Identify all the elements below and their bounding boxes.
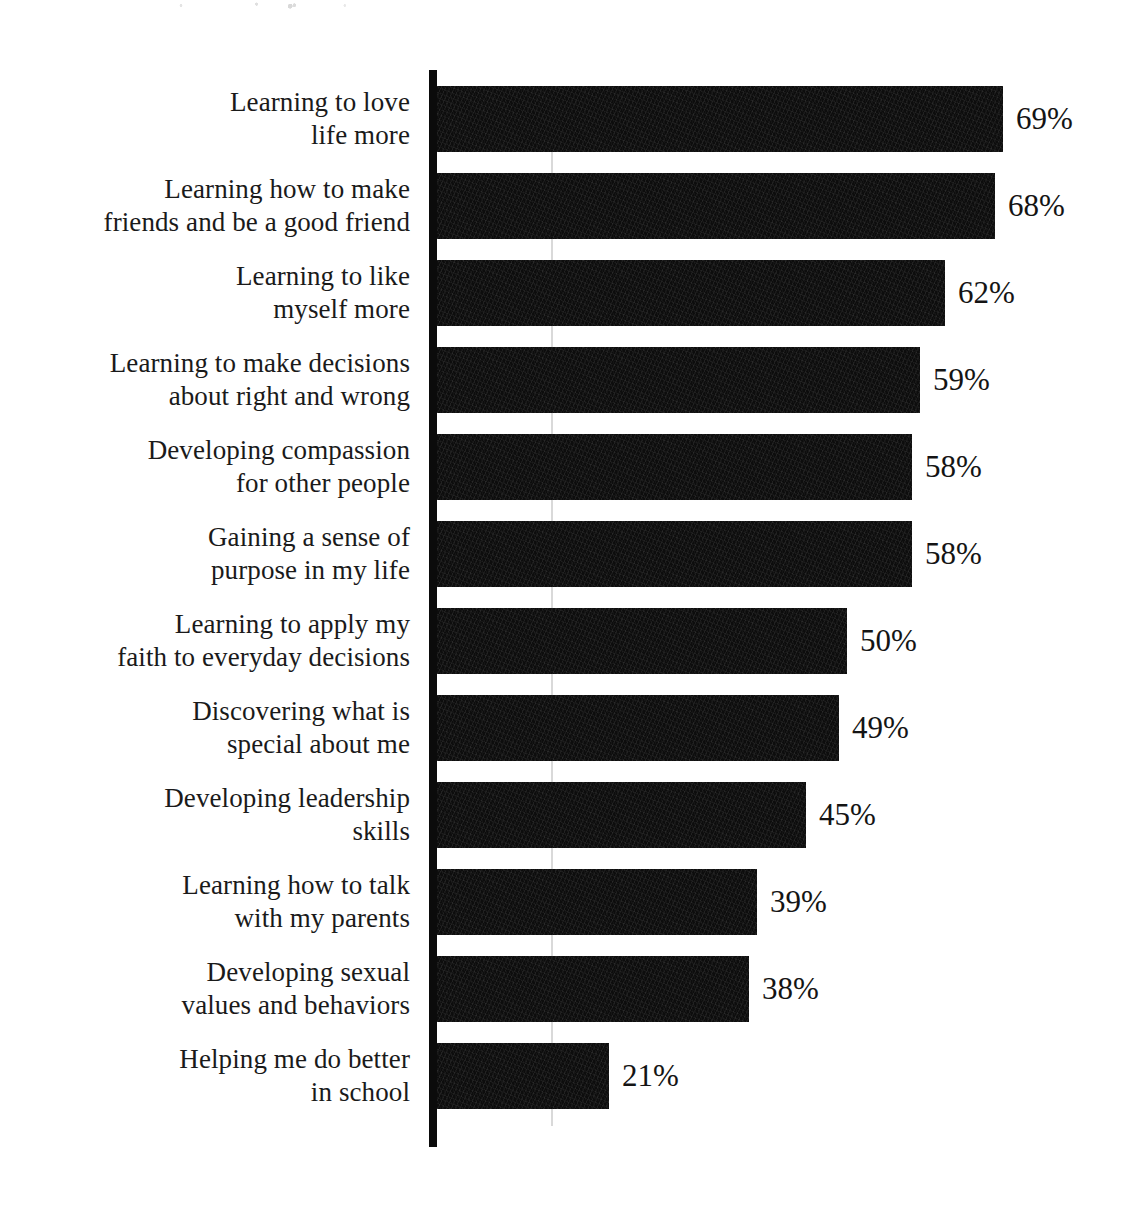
category-label: Discovering what is special about me: [0, 695, 410, 761]
value-label: 59%: [933, 363, 990, 397]
plot-area: Learning to love life more 69% Learning …: [0, 0, 1138, 1219]
bar-row: Learning how to talk with my parents 39%: [0, 869, 1138, 935]
value-label: 58%: [925, 450, 982, 484]
value-label: 50%: [860, 624, 917, 658]
bar: [437, 521, 912, 587]
value-label: 69%: [1016, 102, 1073, 136]
bar-row: Developing compassion for other people 5…: [0, 434, 1138, 500]
value-label: 21%: [622, 1059, 679, 1093]
value-label: 39%: [770, 885, 827, 919]
bar-row: Learning to make decisions about right a…: [0, 347, 1138, 413]
category-label: Learning to like myself more: [0, 260, 410, 326]
value-label: 68%: [1008, 189, 1065, 223]
bar-row: Learning to apply my faith to everyday d…: [0, 608, 1138, 674]
category-label: Learning how to make friends and be a go…: [0, 173, 410, 239]
bar-row: Developing sexual values and behaviors 3…: [0, 956, 1138, 1022]
bar-row: Learning to love life more 69%: [0, 86, 1138, 152]
category-label: Developing leadership skills: [0, 782, 410, 848]
bar: [437, 956, 749, 1022]
bar: [437, 695, 839, 761]
bar-row: Gaining a sense of purpose in my life 58…: [0, 521, 1138, 587]
bar: [437, 86, 1003, 152]
category-label: Learning to make decisions about right a…: [0, 347, 410, 413]
bar: [437, 869, 757, 935]
bar-row: Helping me do better in school 21%: [0, 1043, 1138, 1109]
value-label: 58%: [925, 537, 982, 571]
value-label: 38%: [762, 972, 819, 1006]
value-label: 49%: [852, 711, 909, 745]
bar: [437, 782, 806, 848]
category-label: Learning to apply my faith to everyday d…: [0, 608, 410, 674]
bar-row: Discovering what is special about me 49%: [0, 695, 1138, 761]
category-label: Learning how to talk with my parents: [0, 869, 410, 935]
value-label: 45%: [819, 798, 876, 832]
bar: [437, 173, 995, 239]
category-label: Helping me do better in school: [0, 1043, 410, 1109]
bar-row: Developing leadership skills 45%: [0, 782, 1138, 848]
bar-row: Learning to like myself more 62%: [0, 260, 1138, 326]
category-label: Developing sexual values and behaviors: [0, 956, 410, 1022]
value-label: 62%: [958, 276, 1015, 310]
bar: [437, 1043, 609, 1109]
bar: [437, 260, 945, 326]
category-label: Learning to love life more: [0, 86, 410, 152]
horizontal-bar-chart: Learning to love life more 69% Learning …: [0, 0, 1138, 1219]
category-label: Gaining a sense of purpose in my life: [0, 521, 410, 587]
bar: [437, 347, 920, 413]
bar-row: Learning how to make friends and be a go…: [0, 173, 1138, 239]
category-label: Developing compassion for other people: [0, 434, 410, 500]
bar: [437, 434, 912, 500]
bar: [437, 608, 847, 674]
